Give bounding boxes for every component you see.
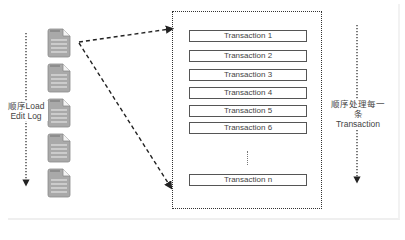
ellipsis-indicator bbox=[247, 151, 249, 165]
transaction-box-last: Transaction n bbox=[189, 174, 307, 186]
transaction-box: Transaction 3 bbox=[189, 69, 307, 81]
document-icon bbox=[46, 133, 72, 163]
sequential-load-label-line2: Edit Log bbox=[4, 111, 48, 121]
sequential-process-label-line1: 顺序处理每一条 bbox=[328, 99, 388, 119]
load-arrow-bottom bbox=[79, 43, 170, 186]
transaction-box: Transaction 5 bbox=[189, 105, 307, 117]
document-icon bbox=[46, 168, 72, 198]
document-icon bbox=[46, 63, 72, 93]
sequential-load-label-line1: 顺序Load bbox=[4, 101, 48, 111]
transaction-box: Transaction 1 bbox=[189, 30, 307, 42]
sequential-process-label-line2: Transaction bbox=[328, 119, 388, 129]
transaction-box: Transaction 6 bbox=[189, 122, 307, 134]
sequential-load-label: 顺序Load Edit Log bbox=[4, 101, 48, 121]
document-icon bbox=[46, 98, 72, 128]
document-icon bbox=[46, 28, 72, 58]
transaction-box: Transaction 2 bbox=[189, 50, 307, 62]
transaction-box: Transaction 4 bbox=[189, 87, 307, 99]
load-arrow-top bbox=[79, 29, 170, 42]
sequential-process-label: 顺序处理每一条 Transaction bbox=[328, 99, 388, 129]
